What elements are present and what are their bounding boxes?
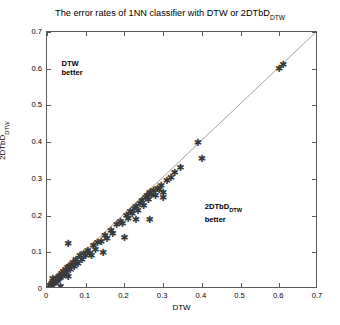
data-point-marker: ✱ — [139, 201, 148, 210]
y-tick-mark — [47, 216, 51, 217]
y-tick-label: 0.4 — [20, 137, 42, 146]
x-tick-label: 0.3 — [157, 291, 168, 300]
data-point-marker: ✱ — [64, 239, 73, 248]
data-point-marker: ✱ — [106, 226, 115, 235]
data-point-marker: ✱ — [63, 263, 72, 272]
data-point-marker: ✱ — [99, 248, 108, 257]
x-tick-mark — [279, 283, 280, 287]
data-point-marker: ✱ — [193, 138, 202, 147]
data-point-marker: ✱ — [60, 270, 69, 279]
data-point-marker: ✱ — [176, 163, 185, 172]
y-tick-mark — [47, 32, 51, 33]
x-axis-title: DTW — [46, 303, 317, 312]
x-tick-mark-top — [279, 32, 280, 36]
data-point-marker: ✱ — [149, 186, 158, 195]
annotation-dtw-better: DTW better — [61, 59, 82, 78]
x-tick-mark-top — [124, 32, 125, 36]
data-point-marker: ✱ — [70, 262, 79, 271]
data-point-marker: ✱ — [57, 269, 66, 278]
y-tick-mark-right — [312, 216, 316, 217]
data-point-marker: ✱ — [61, 265, 70, 274]
data-point-marker: ✱ — [135, 199, 144, 208]
y-tick-label: 0.5 — [20, 100, 42, 109]
data-point-marker: ✱ — [48, 274, 57, 283]
data-point-marker: ✱ — [128, 209, 137, 218]
data-point-marker: ✱ — [56, 282, 65, 288]
data-point-marker: ✱ — [126, 207, 135, 216]
data-point-marker: ✱ — [87, 251, 96, 260]
data-point-marker: ✱ — [147, 190, 156, 199]
x-tick-mark — [47, 283, 48, 287]
data-point-marker: ✱ — [108, 229, 117, 238]
data-point-marker: ✱ — [137, 196, 146, 205]
y-tick-label: 0.3 — [20, 173, 42, 182]
data-point-marker: ✱ — [58, 271, 67, 280]
data-point-marker: ✱ — [56, 271, 65, 280]
data-point-marker: ✱ — [145, 188, 154, 197]
data-point-marker: ✱ — [112, 220, 121, 229]
data-point-marker: ✱ — [52, 274, 61, 283]
y-tick-mark-right — [312, 69, 316, 70]
x-tick-label: 0.5 — [234, 291, 245, 300]
x-tick-mark-top — [202, 32, 203, 36]
y-tick-mark-right — [312, 105, 316, 106]
data-point-marker: ✱ — [64, 272, 73, 281]
data-point-marker: ✱ — [62, 268, 71, 277]
data-point-marker: ✱ — [91, 245, 100, 254]
y-axis-title-subscript: DTW — [4, 121, 10, 134]
data-point-marker: ✱ — [50, 278, 59, 287]
data-point-marker: ✱ — [56, 273, 65, 282]
plot-area: ✱✱✱✱✱✱✱✱✱✱✱✱✱✱✱✱✱✱✱✱✱✱✱✱✱✱✱✱✱✱✱✱✱✱✱✱✱✱✱✱… — [46, 31, 317, 288]
y-tick-mark-right — [312, 179, 316, 180]
data-point-marker: ✱ — [120, 233, 129, 242]
identity-reference-line — [47, 32, 316, 287]
data-point-marker: ✱ — [142, 191, 151, 200]
data-point-marker: ✱ — [170, 168, 179, 177]
data-point-marker: ✱ — [77, 255, 86, 264]
data-point-marker: ✱ — [141, 193, 150, 202]
data-point-marker: ✱ — [122, 211, 131, 220]
data-point-marker: ✱ — [159, 193, 168, 202]
annotation-2dtbd-line1: 2DTbD — [205, 202, 229, 211]
data-point-marker: ✱ — [51, 275, 60, 284]
data-point-marker: ✱ — [97, 237, 106, 246]
data-point-marker: ✱ — [48, 278, 57, 287]
data-point-marker: ✱ — [81, 251, 90, 260]
x-tick-mark — [163, 283, 164, 287]
data-point-marker: ✱ — [48, 280, 57, 288]
data-point-marker: ✱ — [275, 64, 284, 73]
data-point-marker: ✱ — [130, 204, 139, 213]
data-point-marker: ✱ — [75, 251, 84, 260]
y-tick-label: 0.6 — [20, 63, 42, 72]
y-tick-mark-right — [312, 142, 316, 143]
y-tick-label: 0.1 — [20, 247, 42, 256]
y-tick-mark-right — [312, 32, 316, 33]
data-point-marker: ✱ — [54, 272, 63, 281]
data-point-marker: ✱ — [51, 277, 60, 286]
data-point-marker: ✱ — [72, 255, 81, 264]
data-point-marker: ✱ — [93, 238, 102, 247]
annotation-2dtbd-line2: better — [205, 215, 226, 224]
annotation-dtw-line1: DTW — [61, 59, 78, 68]
data-point-marker: ✱ — [279, 60, 288, 69]
y-tick-label: 0 — [20, 284, 42, 293]
x-tick-mark-top — [86, 32, 87, 36]
x-tick-label: 0.1 — [79, 291, 90, 300]
data-point-marker: ✱ — [153, 184, 162, 193]
y-axis-title-text: 2DTbD — [0, 135, 7, 160]
data-point-marker: ✱ — [83, 246, 92, 255]
data-point-marker: ✱ — [66, 265, 75, 274]
data-point-marker: ✱ — [132, 215, 141, 224]
chart-title-text: The error rates of 1NN classifier with D… — [55, 8, 270, 18]
data-point-marker: ✱ — [133, 206, 142, 215]
data-point-marker: ✱ — [49, 279, 58, 288]
x-tick-label: 0.2 — [118, 291, 129, 300]
data-point-marker: ✱ — [155, 185, 164, 194]
data-point-marker: ✱ — [85, 249, 94, 258]
data-point-marker: ✱ — [89, 241, 98, 250]
y-tick-mark — [47, 69, 51, 70]
data-point-marker: ✱ — [157, 181, 166, 190]
x-tick-label: 0.7 — [312, 291, 323, 300]
data-point-marker: ✱ — [55, 274, 64, 283]
data-point-marker: ✱ — [53, 276, 62, 285]
